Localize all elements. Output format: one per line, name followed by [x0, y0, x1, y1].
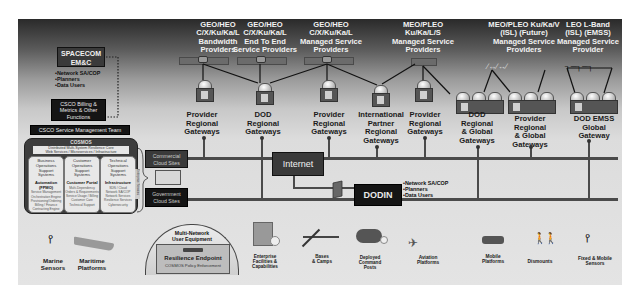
user-equipment-dome: Multi-Network User Equipment Resilience …: [145, 224, 239, 275]
gateway-dod-regional-global: DOD Regional & Global Gateways: [451, 111, 503, 145]
cosmos-box: COSMOS Distributed Multi-System Resilien…: [24, 138, 138, 214]
label: Cloud Sites: [146, 198, 187, 205]
gateway-link: [328, 137, 330, 158]
internet-box: Internet: [272, 152, 324, 176]
gateway-dome-icon: [372, 85, 388, 105]
resilience-endpoint-label: Resilience Endpoint: [157, 255, 229, 261]
gateway-dome-icon: [320, 80, 336, 100]
commercial-bus-line: [188, 157, 618, 160]
label: EM&C: [58, 58, 104, 67]
column-header: Customer Operations Support Systems: [65, 159, 99, 178]
end-user-fixed-mobile-sensors: Fixed & Mobile Sensors: [574, 256, 616, 267]
technical-operations-column: Technical Operations Support Systems Inf…: [100, 156, 136, 213]
end-user-dismounts: Dismounts: [522, 259, 558, 264]
commercial-cloud-sites: Commercial Cloud Sites: [145, 150, 188, 168]
gateway-dome-icon: [196, 80, 212, 100]
gateway-link: [588, 140, 590, 199]
dodin-bullets: •Network SA/COP •Planners •Data Users: [403, 180, 448, 198]
gateway-dome-icon: [256, 83, 272, 103]
dodin-label: DODIN: [364, 190, 393, 200]
antenna-icon: ⫯: [585, 231, 590, 245]
cosmos-side-label: Enterprise Services: [135, 169, 140, 199]
gateway-cluster-icon: [456, 92, 504, 112]
marine-sensor-icon: ⫯: [48, 232, 53, 246]
label: SPACECOM: [58, 49, 104, 58]
node: [375, 145, 379, 149]
label: Government: [146, 191, 187, 198]
csco-service-management-team: CSCO Service Management Team: [30, 125, 130, 135]
end-user-deployed-command-posts: Deployed Command Posts: [352, 255, 388, 271]
cloud-icon: [356, 229, 382, 243]
resilience-endpoint-panel: Resilience Endpoint COSMOS Policy Enforc…: [156, 244, 230, 274]
node: [327, 136, 331, 140]
cosmos-subtitle: Distributed Multi-System Resilience Core…: [33, 146, 129, 154]
end-user-aviation-platforms: Aviation Platforms: [410, 255, 446, 266]
resilience-endpoint-sub: COSMOS Policy Enforcement: [157, 263, 229, 268]
label: Functions: [52, 114, 105, 120]
gateway-dod-regional: DOD Regional Gateways: [238, 111, 288, 137]
gateway-link: [261, 137, 263, 199]
node: [476, 145, 480, 149]
dodin-box: DODIN: [354, 184, 402, 206]
bullet: •Data Users: [55, 82, 100, 88]
internet-label: Internet: [283, 159, 314, 169]
column-bold: Automation (FPMO): [29, 181, 63, 190]
gateway-cluster-icon: [508, 92, 556, 112]
gateway-link: [477, 146, 479, 199]
csco-billing-box: CSCO Billing & Metrics & Other Functions: [51, 99, 106, 121]
column-details: Multi-Dependency Orders & Requirements S…: [65, 186, 99, 207]
node: [202, 136, 206, 140]
government-cloud-sites: Government Cloud Sites: [145, 188, 188, 207]
gateway-cluster-icon: [570, 92, 618, 112]
gateway-link: [424, 137, 426, 158]
node: [423, 136, 427, 140]
label: Web Services / Microservices / Infrastru…: [33, 150, 129, 154]
gateway-dod-emss-global: DOD EMSS Global Gateway: [566, 115, 622, 141]
end-user-marine-sensors: Marine Sensors: [38, 257, 68, 271]
soldiers-icon: 🚶🚶: [533, 232, 555, 245]
label: CSCO Service Management Team: [39, 127, 122, 133]
router-icon: [183, 248, 203, 252]
server-rack-icon: [155, 170, 181, 185]
node: [529, 145, 533, 149]
spacecom-bullets: •Network SA/COP •Planners •Data Users: [55, 70, 100, 88]
node: [587, 139, 591, 143]
gateway-dome-icon: [415, 80, 431, 100]
gateway-link: [203, 137, 205, 158]
end-user-enterprise-facilities: Enterprise Facilities & Capabilities: [244, 254, 286, 270]
bullet: •Data Users: [403, 192, 448, 198]
dome-icon: [270, 236, 280, 246]
label: Cloud Sites: [146, 160, 187, 167]
business-operations-column: Business Operations Support Systems Auto…: [28, 156, 64, 213]
column-header: Technical Operations Support Systems: [101, 159, 135, 178]
column-details: Service Management Orchestration Engine …: [29, 190, 63, 211]
spacecom-emc-box: SPACECOM EM&C: [57, 47, 105, 67]
column-header: Business Operations Support Systems: [29, 159, 63, 178]
vehicle-icon: [482, 236, 504, 244]
label: Gateways: [353, 137, 409, 146]
label: Metrics & Other: [52, 107, 105, 113]
node: [260, 136, 264, 140]
dome-icon: [380, 236, 388, 244]
end-user-bases-camps: Bases & Camps: [306, 254, 338, 264]
label: Gateway: [566, 132, 622, 141]
cosmos-title: COSMOS: [25, 140, 137, 145]
column-details: SDN / Cloud Network SA/COP Network Servi…: [101, 186, 135, 207]
gateway-provider-regional-3: Provider Regional Gateways: [400, 111, 450, 137]
customer-operations-column: Customer Operations Support Systems Cust…: [64, 156, 100, 213]
end-user-mobile-platforms: Mobile Platforms: [476, 254, 510, 265]
aircraft-icon: ✈: [408, 236, 418, 250]
end-user-maritime-platforms: Maritime Platforms: [72, 257, 112, 271]
gateway-provider-regional-1: Provider Regional Gateways: [176, 111, 228, 137]
government-bus-line: [188, 198, 618, 201]
user-equipment-title: Multi-Network User Equipment: [146, 230, 238, 242]
gateway-provider-regional-2: Provider Regional Gateways: [304, 111, 354, 137]
